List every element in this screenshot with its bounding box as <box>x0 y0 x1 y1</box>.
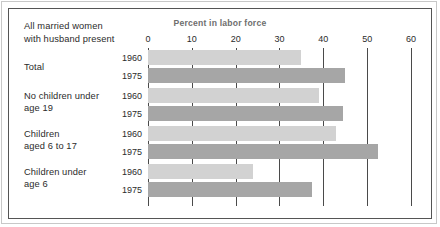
row-label-3-line-1: age 6 <box>24 179 48 189</box>
plot-area <box>8 48 432 206</box>
year-label-1-1960: 1960 <box>108 91 142 101</box>
year-label-3-1960: 1960 <box>108 167 142 177</box>
stub-head-line-2: with husband present <box>24 34 114 44</box>
year-label-0-1960: 1960 <box>108 53 142 63</box>
year-label-1-1975: 1975 <box>108 109 142 119</box>
x-tick-label-60: 60 <box>406 34 416 44</box>
row-label-2-line-0: Children <box>24 129 59 139</box>
figure-root: All married women with husband present P… <box>0 0 440 227</box>
row-label-1-line-1: age 19 <box>24 103 53 113</box>
x-tick-label-40: 40 <box>318 34 328 44</box>
x-tick-label-30: 30 <box>274 34 284 44</box>
year-label-0-1975: 1975 <box>108 71 142 81</box>
row-label-2-line-1: aged 6 to 17 <box>24 141 77 151</box>
bar-0-1975 <box>148 68 345 83</box>
chart-title: Percent in labor force <box>8 18 432 28</box>
year-label-2-1975: 1975 <box>108 147 142 157</box>
bar-3-1975 <box>148 182 312 197</box>
bar-1-1975 <box>148 106 343 121</box>
year-label-2-1960: 1960 <box>108 129 142 139</box>
row-label-0-line-0: Total <box>24 62 44 72</box>
bar-chart: All married women with husband present P… <box>8 8 432 219</box>
gridline-60 <box>411 48 412 206</box>
x-tick-label-20: 20 <box>231 34 241 44</box>
bar-3-1960 <box>148 164 253 179</box>
bar-0-1960 <box>148 50 301 65</box>
x-tick-label-50: 50 <box>362 34 372 44</box>
x-tick-label-10: 10 <box>187 34 197 44</box>
bar-2-1975 <box>148 144 378 159</box>
year-label-3-1975: 1975 <box>108 185 142 195</box>
row-label-3-line-0: Children under <box>24 167 86 177</box>
bar-1-1960 <box>148 88 319 103</box>
bar-2-1960 <box>148 126 336 141</box>
row-label-1-line-0: No children under <box>24 91 99 101</box>
gridline-50 <box>367 48 368 206</box>
x-tick-label-0: 0 <box>145 34 150 44</box>
